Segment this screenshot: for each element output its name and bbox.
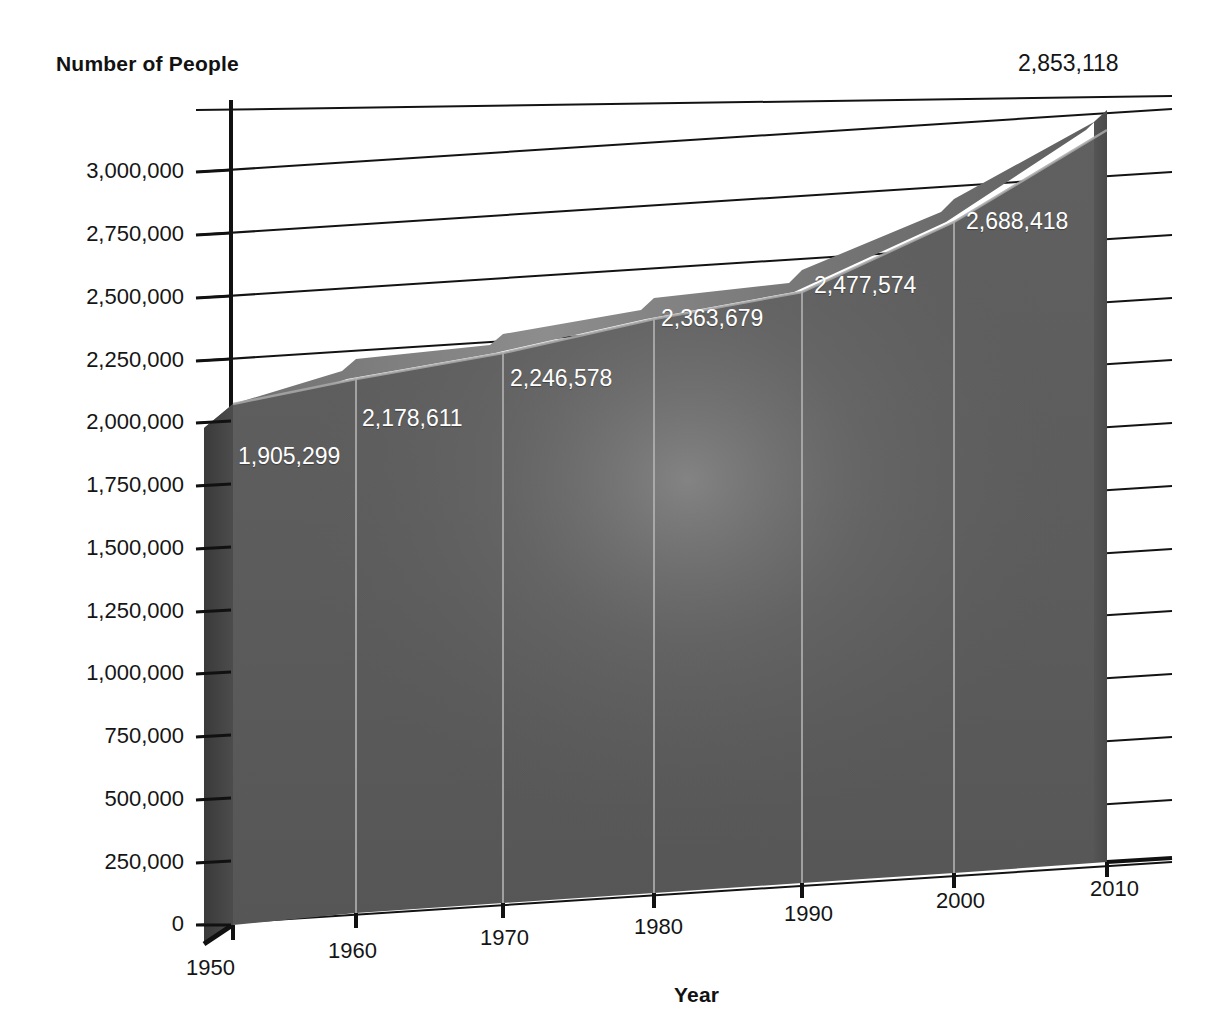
y-tick-label-500000: 500,000 (24, 786, 184, 812)
y-tick-label-2250000: 2,250,000 (24, 347, 184, 373)
x-axis-extension (1107, 858, 1172, 862)
x-tick-label-2000: 2000 (936, 888, 985, 914)
y-tick-label-1000000: 1,000,000 (24, 660, 184, 686)
y-tick-label-1750000: 1,750,000 (24, 472, 184, 498)
data-label-1960: 2,178,611 (362, 405, 463, 432)
data-label-1970: 2,246,578 (510, 365, 612, 392)
x-tick-label-2010: 2010 (1090, 876, 1139, 902)
y-tick-label-2500000: 2,500,000 (24, 284, 184, 310)
data-label-2010: 2,853,118 (1018, 50, 1119, 77)
y-axis-title: Number of People (56, 52, 239, 76)
y-tick-label-1250000: 1,250,000 (24, 598, 184, 624)
x-tick-label-1960: 1960 (328, 938, 377, 964)
y-tick-label-2750000: 2,750,000 (24, 221, 184, 247)
x-tick-label-1950: 1950 (186, 955, 235, 981)
area-front-highlight (233, 130, 1107, 925)
data-label-2000: 2,688,418 (966, 208, 1068, 235)
data-label-1980: 2,363,679 (661, 305, 763, 332)
x-tick-label-1970: 1970 (480, 925, 529, 951)
y-tick-label-1500000: 1,500,000 (24, 535, 184, 561)
area-right-end-face (1094, 110, 1107, 862)
y-tick-label-250000: 250,000 (24, 849, 184, 875)
y-tick-label-2000000: 2,000,000 (24, 409, 184, 435)
area-chart: Number of People Year 0 250,000 500,000 … (0, 0, 1217, 1026)
x-tick-label-1980: 1980 (634, 914, 683, 940)
y-tick-label-3000000: 3,000,000 (24, 158, 184, 184)
data-label-1950: 1,905,299 (238, 443, 340, 470)
data-label-1990: 2,477,574 (814, 272, 916, 299)
y-tick-label-750000: 750,000 (24, 723, 184, 749)
y-tick-label-0: 0 (24, 911, 184, 937)
x-tick-label-1990: 1990 (784, 901, 833, 927)
x-axis-title: Year (674, 983, 719, 1007)
